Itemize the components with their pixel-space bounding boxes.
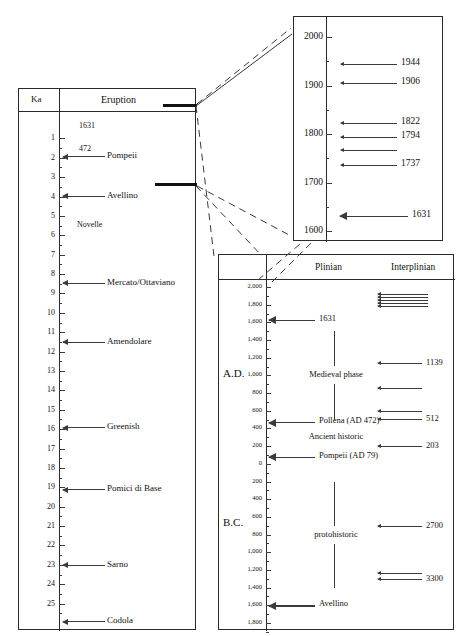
interplinian-event-label: 3300: [426, 574, 443, 583]
interplinian-event-arrow: [378, 419, 422, 420]
bottom-axis-tick: [266, 517, 271, 518]
left-axis-tick: [59, 526, 65, 527]
left-axis-tick-label: 16: [33, 425, 55, 433]
plinian-phase-bracket: [334, 544, 335, 588]
plinian-event-label: Pollena (AD 472): [319, 416, 379, 425]
bottom-axis-tick: [266, 358, 271, 359]
plinian-phase-bracket: [334, 384, 335, 419]
top-right-axis-tick-label: 1800: [296, 129, 323, 139]
left-event-label: Amendolare: [107, 337, 151, 346]
plinian-event-arrow: [269, 422, 315, 423]
left-axis-minor-tick: [59, 478, 62, 479]
historical-eruption-year: 1822: [401, 117, 420, 127]
left-axis-tick-label: 24: [33, 580, 55, 588]
left-axis-tick-label: 10: [33, 309, 55, 317]
left-ka-panel: Ka Eruption 1234567891011121314151617181…: [18, 88, 196, 630]
left-plain-label: 1631: [79, 122, 95, 130]
left-axis-minor-tick: [59, 594, 62, 595]
left-axis-tick: [59, 545, 65, 546]
plinian-phase-bracket: [334, 331, 335, 366]
interplinian-event-label: 512: [426, 414, 439, 423]
top-right-axis-tick: [326, 37, 332, 38]
bottom-axis-tick-label: 1,400: [235, 336, 262, 343]
bottom-axis-tick: [266, 287, 271, 288]
left-axis-tick-label: 15: [33, 406, 55, 414]
plinian-phase-bracket: [334, 482, 335, 526]
historical-eruption-arrow: [341, 150, 397, 151]
leader-stub-to-topright-a: [197, 28, 291, 104]
left-axis-tick: [59, 177, 65, 178]
plinian-event-label: 1631: [319, 314, 336, 323]
leader-left-top-to-bottom: [196, 106, 214, 256]
left-axis-minor-tick: [59, 187, 62, 188]
left-axis-tick-label: 21: [33, 522, 55, 530]
left-header-age: Ka: [31, 95, 42, 104]
left-axis-tick-label: 7: [33, 251, 55, 259]
left-axis-tick: [59, 138, 65, 139]
left-axis-tick: [59, 255, 65, 256]
left-axis-tick: [59, 390, 65, 391]
bottom-axis-tick-label: 1,600: [235, 601, 262, 608]
plinian-phase-label: Ancient historic: [286, 432, 386, 441]
historical-eruption-year: 1737: [401, 159, 420, 169]
bottom-axis-tick: [266, 411, 271, 412]
left-axis-minor-tick: [59, 516, 62, 517]
left-axis-tick-label: 8: [33, 270, 55, 278]
connector-stub-mid: [155, 183, 197, 186]
left-axis-minor-tick: [59, 206, 62, 207]
left-axis-tick: [59, 274, 65, 275]
top-right-axis-tick: [326, 86, 332, 87]
left-axis-tick: [59, 584, 65, 585]
bottom-axis-tick: [266, 535, 271, 536]
left-axis-minor-tick: [59, 419, 62, 420]
interplinian-event-arrow: [378, 363, 422, 364]
top-right-axis-line: [326, 17, 327, 242]
bottom-axis-minor-tick: [266, 614, 269, 615]
left-event-label: Pompeii: [107, 151, 137, 160]
bottom-axis-minor-tick: [266, 596, 269, 597]
left-axis-minor-tick: [59, 381, 62, 382]
bottom-axis-minor-tick: [266, 314, 269, 315]
left-axis-tick: [59, 410, 65, 411]
interplinian-event-label: 1139: [426, 358, 443, 367]
plinian-event-label: Avellino: [319, 599, 348, 608]
left-axis-tick-label: 6: [33, 231, 55, 239]
left-event-label: Mercato/Ottaviano: [107, 278, 175, 287]
left-event-label: Avellino: [107, 191, 138, 200]
interplinian-event-arrow: [378, 411, 422, 412]
plinian-interplinian-panel: Plinian Interplinian A.D. B.C. 2,0001,80…: [218, 254, 454, 630]
left-axis-tick: [59, 293, 65, 294]
interplinian-event-label: 2700: [426, 521, 443, 530]
left-axis-tick-label: 4: [33, 193, 55, 201]
top-right-axis-tick: [326, 183, 332, 184]
bottom-axis-minor-tick: [266, 561, 269, 562]
left-axis-tick: [59, 449, 65, 450]
left-axis-tick-label: 1: [33, 134, 55, 142]
bottom-axis-tick-label: 1,600: [235, 318, 262, 325]
top-right-axis-tick-label: 1900: [296, 81, 323, 91]
bottom-axis-tick: [266, 428, 271, 429]
interplinian-event-label: 203: [426, 441, 439, 450]
bottom-axis-tick-label: 600: [235, 407, 262, 414]
leader-left-mid-to-bottom: [196, 186, 262, 256]
interplinian-cluster-arrow: [378, 297, 428, 298]
interplinian-cluster-arrow: [378, 300, 428, 301]
left-event-label: Pomici di Base: [107, 484, 162, 493]
left-axis-tick: [59, 235, 65, 236]
historical-eruption-arrow: [341, 165, 397, 166]
left-axis-tick-label: 18: [33, 464, 55, 472]
left-axis-minor-tick: [59, 264, 62, 265]
interplinian-cluster-arrow: [378, 294, 428, 295]
bottom-axis-minor-tick: [266, 543, 269, 544]
historical-eruption-year: 1631: [412, 210, 431, 220]
left-axis-minor-tick: [59, 167, 62, 168]
left-axis-tick: [59, 352, 65, 353]
top-right-axis-tick-label: 1600: [296, 226, 323, 236]
leader-left-top-to-topright: [196, 34, 292, 106]
left-axis-tick-label: 20: [33, 503, 55, 511]
left-axis-tick-label: 5: [33, 212, 55, 220]
top-right-axis-minor-tick: [326, 61, 329, 62]
left-axis-minor-tick: [59, 575, 62, 576]
left-axis-minor-tick: [59, 226, 62, 227]
bottom-axis-tick-label: 1,800: [235, 619, 262, 626]
